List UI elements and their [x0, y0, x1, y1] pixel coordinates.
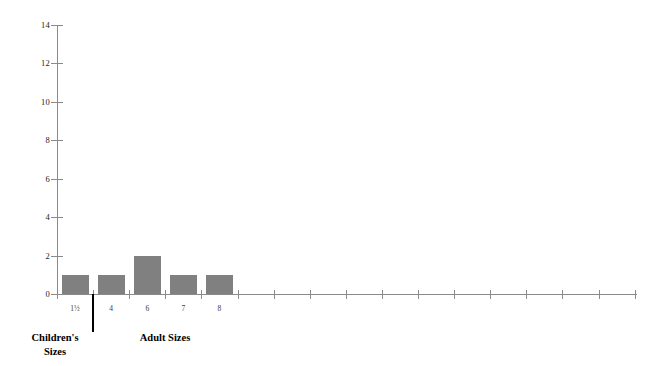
y-axis-tick-label: 10: [22, 98, 50, 106]
bar: [206, 275, 233, 294]
y-axis-tick-label: 2: [22, 252, 50, 260]
x-axis-tick-label: 6: [132, 305, 162, 313]
x-axis-tick: [526, 290, 527, 299]
children-sizes-caption: Children's Sizes: [18, 331, 92, 359]
y-axis-tick: [51, 217, 63, 218]
x-axis-tick: [635, 290, 636, 299]
y-axis-tick-label: 4: [22, 213, 50, 221]
y-axis-tick-label: 6: [22, 175, 50, 183]
x-axis-tick: [129, 290, 130, 299]
y-axis-tick: [51, 179, 63, 180]
y-axis-tick: [51, 25, 63, 26]
x-axis-tick: [490, 290, 491, 299]
x-axis-tick-label: 7: [168, 305, 198, 313]
x-axis-tick-label: 8: [204, 305, 234, 313]
y-axis-tick-label: 12: [22, 59, 50, 67]
x-axis-tick: [346, 290, 347, 299]
x-axis-tick: [165, 290, 166, 299]
y-axis-line: [57, 25, 58, 294]
x-axis-tick-label: 4: [96, 305, 126, 313]
x-axis-tick: [310, 290, 311, 299]
x-axis-tick: [201, 290, 202, 299]
histogram-chart: 14121086420 1½4678 Children's Sizes Adul…: [0, 0, 667, 366]
x-axis-tick: [238, 290, 239, 299]
y-axis-tick: [51, 102, 63, 103]
bar: [170, 275, 197, 294]
bar: [98, 275, 125, 294]
size-group-divider: [92, 294, 94, 332]
x-axis-line: [57, 294, 637, 295]
y-axis-tick-label: 14: [22, 21, 50, 29]
bar: [134, 256, 161, 294]
x-axis-tick: [382, 290, 383, 299]
adult-sizes-caption: Adult Sizes: [110, 331, 220, 345]
x-axis-tick-label: 1½: [60, 305, 90, 313]
x-axis-tick: [599, 290, 600, 299]
y-axis-tick: [51, 63, 63, 64]
y-axis-tick: [51, 140, 63, 141]
x-axis-tick: [454, 290, 455, 299]
y-axis-tick-label: 8: [22, 136, 50, 144]
x-axis-tick: [562, 290, 563, 299]
bar: [62, 275, 89, 294]
y-axis-tick-label: 0: [22, 290, 50, 298]
x-axis-tick: [57, 290, 58, 299]
x-axis-tick: [274, 290, 275, 299]
x-axis-tick: [418, 290, 419, 299]
y-axis-tick: [51, 256, 63, 257]
